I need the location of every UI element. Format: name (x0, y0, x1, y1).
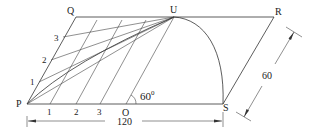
base-division-line-2 (76, 20, 122, 104)
label-side-1: 1 (30, 77, 35, 87)
label-s: S (223, 102, 229, 113)
label-r: R (275, 6, 282, 17)
label-base-3: 3 (97, 107, 102, 117)
parabola-construction-diagram: Q U R P S O 3 2 1 1 2 3 600 120 60 (0, 0, 315, 137)
label-side-2: 2 (42, 55, 47, 65)
dimension-base-label: 120 (117, 116, 132, 127)
dimension-slant-label: 60 (262, 70, 272, 81)
label-side-3: 3 (54, 33, 59, 43)
label-u: U (170, 4, 178, 15)
angle-label: 600 (140, 89, 155, 102)
arrow-up-icon (289, 32, 295, 40)
slant-dim-tick-bottom (236, 112, 251, 121)
arrow-down-icon (244, 109, 249, 117)
label-base-1: 1 (47, 107, 52, 117)
arrow-left-icon (28, 120, 36, 123)
arrow-right-icon (214, 120, 222, 123)
label-p: P (16, 98, 22, 109)
curve-right-half (174, 17, 223, 104)
angle-arc (131, 95, 136, 104)
label-q: Q (67, 5, 75, 16)
label-base-2: 2 (74, 107, 79, 117)
